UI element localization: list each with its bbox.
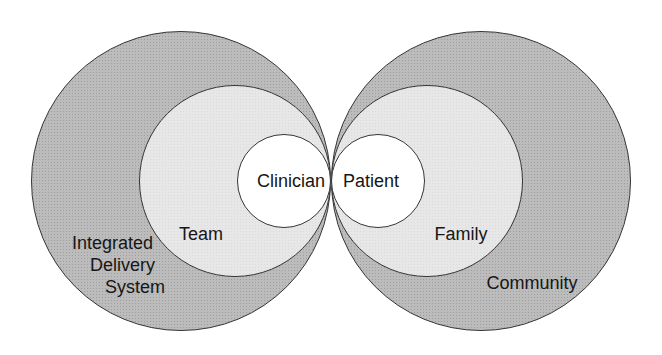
integrated-delivery-system-label-line-3: System xyxy=(105,276,165,298)
integrated-delivery-system-label-line-2: Delivery xyxy=(90,254,165,276)
family-label: Family xyxy=(435,223,488,245)
integrated-delivery-system-label: Integrated Delivery System xyxy=(72,232,165,298)
integrated-delivery-system-label-line-1: Integrated xyxy=(72,232,165,254)
nested-circles-diagram: Integrated Delivery System Team Clinicia… xyxy=(0,0,662,355)
patient-label: Patient xyxy=(343,170,399,192)
community-label: Community xyxy=(486,272,577,294)
team-label: Team xyxy=(179,223,223,245)
clinician-label: Clinician xyxy=(257,170,325,192)
